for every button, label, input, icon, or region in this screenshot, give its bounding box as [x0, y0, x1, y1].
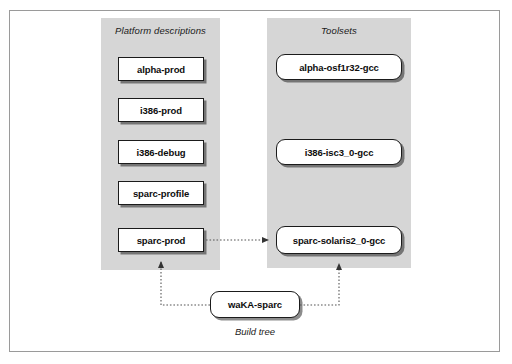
- node-alpha-prod[interactable]: alpha-prod: [118, 57, 204, 81]
- node-i386-debug[interactable]: i386-debug: [118, 140, 204, 164]
- node-sparc-prod[interactable]: sparc-prod: [118, 228, 204, 252]
- node-waka-sparc[interactable]: waKA-sparc: [210, 291, 300, 318]
- build-tree-caption: Build tree: [195, 326, 315, 337]
- diagram-canvas: Platform descriptions Toolsets alpha-pro…: [0, 0, 512, 364]
- node-sparc-profile[interactable]: sparc-profile: [118, 181, 204, 205]
- node-alpha-osf1r32-gcc[interactable]: alpha-osf1r32-gcc: [276, 54, 402, 80]
- node-i386-isc3-0-gcc[interactable]: i386-isc3_0-gcc: [276, 139, 402, 165]
- node-i386-prod[interactable]: i386-prod: [118, 98, 204, 122]
- node-sparc-solaris2-0-gcc[interactable]: sparc-solaris2_0-gcc: [276, 226, 402, 254]
- panel-toolsets-title: Toolsets: [267, 25, 411, 36]
- panel-platform-descriptions-title: Platform descriptions: [101, 25, 220, 36]
